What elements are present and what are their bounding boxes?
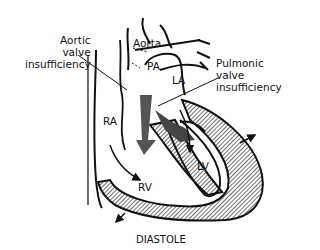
label-line: valve	[216, 69, 282, 81]
la-label: LA	[172, 74, 185, 86]
label-line: Pulmonic	[216, 57, 282, 69]
pulmonic-valve-label: Pulmonic valve insufficiency	[216, 57, 282, 93]
label-line: insufficiency	[25, 58, 91, 70]
aortic-valve-label: Aortic valve insufficiency	[25, 34, 91, 70]
rv-expand-arrow	[116, 213, 125, 222]
ra-label: RA	[103, 115, 117, 127]
caption: DIASTOLE	[136, 234, 186, 246]
label-line: valve	[25, 46, 91, 58]
aorta-label: Aorta	[133, 37, 161, 49]
pa-label: PA	[147, 60, 160, 72]
ra-to-rv-arrow	[110, 145, 140, 180]
label-line: Aortic	[25, 34, 91, 46]
lv-label: LV	[197, 160, 209, 172]
label-line: insufficiency	[216, 81, 282, 93]
rv-label: RV	[138, 181, 152, 193]
